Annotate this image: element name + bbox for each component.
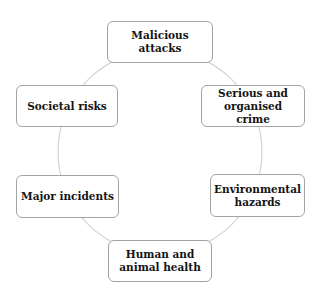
node-label-line1: Malicious bbox=[131, 29, 188, 42]
node-environmental-hazards: Environmental hazards bbox=[210, 174, 305, 217]
node-human-animal-health: Human and animal health bbox=[108, 240, 212, 282]
node-label-line1: Serious and bbox=[206, 87, 300, 100]
node-label-line1: Environmental bbox=[214, 183, 301, 196]
node-label-line2: animal health bbox=[119, 261, 201, 274]
node-label-line1: Major incidents bbox=[21, 190, 114, 203]
node-major-incidents: Major incidents bbox=[16, 175, 119, 218]
node-label-line2: attacks bbox=[131, 42, 188, 55]
node-label-line2: hazards bbox=[214, 196, 301, 209]
node-malicious-attacks: Malicious attacks bbox=[107, 21, 213, 63]
node-serious-organised-crime: Serious and organised crime bbox=[201, 85, 305, 127]
node-label-line1: Societal risks bbox=[27, 100, 107, 113]
node-label-line2: organised crime bbox=[206, 100, 300, 126]
node-societal-risks: Societal risks bbox=[16, 85, 118, 127]
node-label-line1: Human and bbox=[119, 248, 201, 261]
